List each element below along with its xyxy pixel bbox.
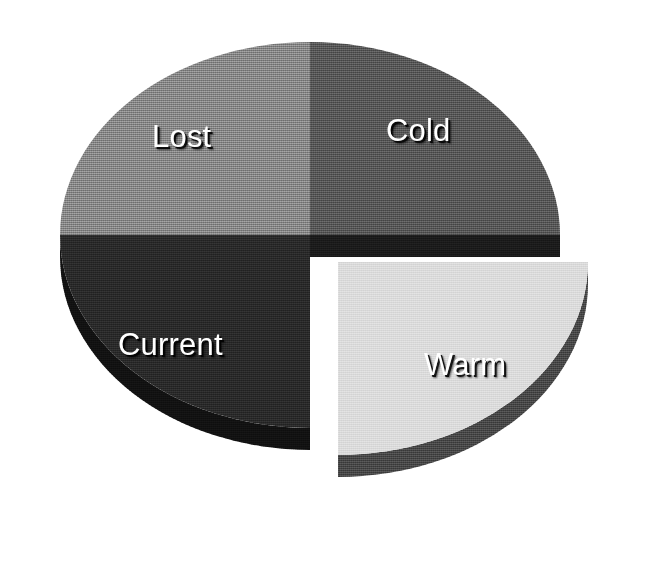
slice-depth-cold-arc xyxy=(310,235,560,257)
slice-label-lost: Lost xyxy=(152,119,211,155)
slice-label-warm: Warm xyxy=(424,347,506,383)
slice-label-current: Current xyxy=(118,327,223,363)
pie-chart: Lost Cold Current Warm xyxy=(0,0,645,588)
slice-label-cold: Cold xyxy=(386,113,451,149)
pie-chart-canvas xyxy=(0,0,645,588)
